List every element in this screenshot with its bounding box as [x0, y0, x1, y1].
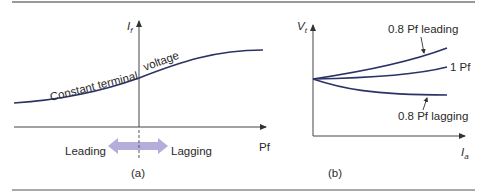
leading-label: Leading: [65, 145, 106, 157]
lagging-label: Lagging: [171, 145, 212, 157]
pointer-leading: [421, 37, 424, 53]
curve-0-8-pf-lagging: [313, 79, 447, 95]
label-0-8-pf-leading: 0.8 Pf leading: [388, 23, 458, 35]
panel-a-caption: (a): [131, 167, 145, 179]
curve-label-constant-terminal: Constant terminal: [49, 69, 139, 102]
label-1-pf: 1 Pf: [450, 61, 471, 73]
label-0-8-pf-lagging: 0.8 Pf lagging: [398, 110, 468, 122]
panel-a: If Pf Constant terminal voltage Leading …: [14, 20, 271, 179]
leading-lagging-arrow: [108, 138, 168, 154]
curve-0-8-pf-leading: [313, 48, 447, 79]
curve-1-pf: [313, 67, 447, 79]
figure-canvas: If Pf Constant terminal voltage Leading …: [0, 0, 482, 196]
panel-b-y-label: Vt: [297, 20, 308, 35]
panel-b-x-label: Ia: [461, 146, 469, 161]
panel-a-x-label: Pf: [259, 141, 271, 153]
pointer-lagging: [423, 98, 427, 110]
panel-a-y-label: If: [127, 20, 133, 35]
panel-b: Vt Ia 0.8 Pf leading 1 Pf 0.8 Pf lagging…: [297, 20, 471, 179]
panel-b-caption: (b): [328, 167, 342, 179]
